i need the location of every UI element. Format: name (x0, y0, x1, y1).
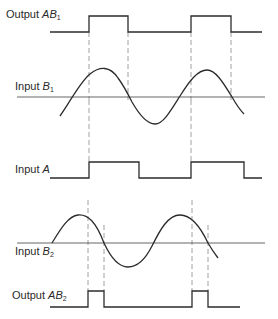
output-ab1-trace (50, 16, 262, 32)
input-b2-trace (52, 215, 218, 267)
input-a-trace (50, 162, 262, 178)
timing-diagram (0, 0, 278, 319)
output-ab2-trace (50, 291, 240, 307)
input-b1-trace (60, 68, 244, 124)
